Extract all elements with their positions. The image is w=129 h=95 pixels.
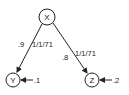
edge-x-y-annotation: 1/1/71 — [32, 40, 53, 49]
external-input-z: .2 — [100, 76, 119, 85]
node-x: X — [39, 9, 55, 25]
node-y-label: Y — [10, 76, 16, 85]
external-input-z-label: .2 — [113, 76, 119, 85]
causal-diagram: X Y Z .9 1/1/71 .8 1/1/71 .1 .2 — [0, 0, 129, 95]
node-z: Z — [85, 73, 99, 87]
edge-x-z: .8 1/1/71 — [53, 23, 96, 73]
edge-x-z-annotation: 1/1/71 — [75, 49, 96, 58]
arrow-x-z-icon — [53, 23, 87, 73]
external-input-y: .1 — [21, 76, 40, 85]
edge-x-y: .9 1/1/71 — [17, 24, 53, 72]
node-z-label: Z — [90, 76, 95, 85]
node-x-label: X — [44, 13, 50, 22]
node-y: Y — [6, 73, 20, 87]
edge-x-y-weight: .9 — [18, 40, 24, 49]
external-input-y-label: .1 — [34, 76, 40, 85]
edge-x-z-weight: .8 — [62, 53, 68, 62]
